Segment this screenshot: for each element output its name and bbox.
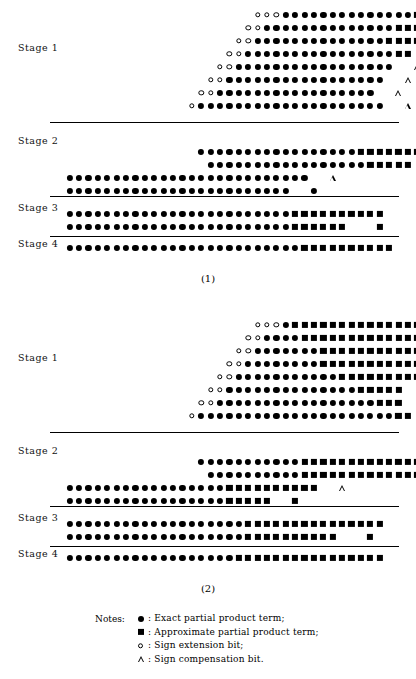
approx-term-square (243, 519, 252, 529)
exact-term-dot (244, 160, 253, 170)
exact-term-dot (215, 496, 224, 506)
approx-term-square (337, 470, 346, 480)
sign-compensation-bit (394, 88, 403, 98)
approx-term-square (375, 160, 384, 170)
exact-term-dot (243, 173, 252, 183)
exact-term-dot (74, 483, 83, 493)
exact-term-dot (65, 483, 74, 493)
exact-term-dot (281, 385, 290, 395)
exact-term-dot (262, 186, 271, 196)
approx-term-square (300, 209, 309, 219)
sign-extension-bit (197, 88, 206, 98)
approx-term-square (234, 483, 243, 493)
exact-term-dot (131, 186, 140, 196)
exact-term-dot (291, 333, 300, 343)
sign-extension-bit (225, 359, 234, 369)
approx-term-square (375, 222, 384, 232)
approx-term-square (300, 457, 309, 467)
exact-term-dot (112, 553, 121, 563)
approx-term-square (337, 519, 346, 529)
exact-term-dot (159, 519, 168, 529)
approx-term-square (413, 320, 416, 330)
exact-term-dot (244, 385, 253, 395)
exact-term-dot (93, 483, 102, 493)
exact-term-dot (93, 532, 102, 542)
exact-term-dot (337, 398, 346, 408)
exact-term-dot (150, 553, 159, 563)
exact-term-dot (347, 147, 356, 157)
exact-term-dot (281, 88, 290, 98)
approx-term-square (366, 333, 375, 343)
approx-term-square (366, 470, 375, 480)
approx-term-square (375, 320, 384, 330)
approx-term-square (234, 496, 243, 506)
exact-term-dot (187, 553, 196, 563)
partial-product-row (253, 320, 416, 330)
exact-term-dot (225, 222, 234, 232)
sign-extension-bit (215, 372, 224, 382)
exact-term-dot (403, 10, 412, 20)
exact-term-dot (140, 532, 149, 542)
approx-term-square (309, 553, 318, 563)
exact-term-dot (281, 457, 290, 467)
exact-term-dot (272, 333, 281, 343)
exact-term-dot (215, 411, 224, 421)
exact-term-dot (206, 470, 215, 480)
approx-term-square (375, 359, 384, 369)
approx-term-square (319, 519, 328, 529)
exact-term-dot (281, 101, 290, 111)
exact-term-dot (253, 470, 262, 480)
exact-term-dot (291, 160, 300, 170)
exact-term-dot (103, 519, 112, 529)
exact-term-dot (384, 62, 393, 72)
exact-term-dot (337, 88, 346, 98)
stage-divider (50, 196, 399, 197)
exact-term-dot (319, 62, 328, 72)
exact-term-dot (206, 483, 215, 493)
exact-term-dot (356, 62, 365, 72)
exact-term-dot (309, 10, 318, 20)
exact-term-dot (262, 36, 271, 46)
sign-extension-bit (253, 333, 262, 343)
exact-term-dot (103, 483, 112, 493)
exact-term-dot (262, 160, 271, 170)
approx-term-square (319, 243, 328, 253)
exact-term-dot (234, 519, 243, 529)
approx-term-square (319, 457, 328, 467)
exact-term-dot (328, 385, 337, 395)
exact-term-dot (225, 243, 234, 253)
exact-term-dot (375, 62, 384, 72)
approx-term-square (272, 553, 281, 563)
approx-term-square (337, 372, 346, 382)
exact-term-dot (291, 49, 300, 59)
exact-term-dot (319, 385, 328, 395)
partial-product-row (187, 101, 412, 111)
exact-term-dot (93, 243, 102, 253)
exact-term-dot (196, 553, 205, 563)
approx-term-square (403, 457, 412, 467)
approx-term-square (319, 320, 328, 330)
approx-term-square (234, 553, 243, 563)
sign-extension-bit (206, 398, 215, 408)
exact-term-dot (225, 470, 234, 480)
exact-term-dot (281, 75, 290, 85)
exact-term-dot (225, 186, 234, 196)
approx-term-square (366, 532, 375, 542)
partial-product-row (206, 385, 416, 395)
exact-term-dot (309, 372, 318, 382)
approx-term-square (328, 320, 337, 330)
approx-term-square (394, 160, 403, 170)
exact-term-dot (234, 470, 243, 480)
exact-term-dot (337, 49, 346, 59)
approx-term-square (384, 372, 393, 382)
exact-term-dot (84, 532, 93, 542)
exact-term-dot (243, 222, 252, 232)
partial-product-row (65, 186, 319, 196)
exact-term-dot (262, 75, 271, 85)
approx-term-square (356, 385, 365, 395)
exact-term-dot (337, 385, 346, 395)
exact-term-dot (234, 385, 243, 395)
exact-term-dot (309, 359, 318, 369)
approx-term-square (290, 209, 299, 219)
partial-product-row (65, 483, 347, 493)
